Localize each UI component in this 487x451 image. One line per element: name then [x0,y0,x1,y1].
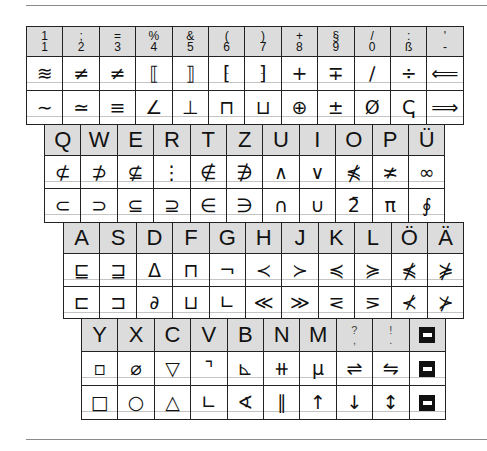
letter-key[interactable]: H [246,223,282,254]
letter-key[interactable]: K [319,223,355,254]
symbol-key[interactable]: ⋮ [154,156,190,189]
letter-key[interactable]: V [191,319,227,352]
symbol-key[interactable]: ∟ [191,386,227,420]
symbol-key[interactable]: ↓ [337,386,373,420]
letter-key[interactable]: Ä [428,223,464,254]
letter-key[interactable]: Z [227,125,263,156]
symbol-key[interactable]: π [373,189,409,223]
letter-key[interactable]: D [137,223,173,254]
letter-key[interactable]: E [118,125,154,156]
letter-key[interactable]: N [264,319,300,352]
symbol-key[interactable]: ∼ [27,91,63,125]
symbol-key[interactable]: ⌀ [118,352,154,386]
symbol-key[interactable]: ⇋ [373,352,409,386]
symbol-key[interactable]: ⟦ [136,57,172,91]
letter-key[interactable]: C [155,319,191,352]
symbol-key[interactable]: ⌝ [191,352,227,386]
symbol-key[interactable]: ∩ [263,189,299,223]
symbol-key[interactable]: ⋠ [392,254,428,287]
symbol-key[interactable]: ⟸ [427,57,463,91]
symbol-key[interactable]: ⊔ [173,287,209,319]
symbol-key[interactable]: ⟧ [173,57,209,91]
symbol-key[interactable]: ∋ [227,189,263,223]
symbol-key[interactable]: ≃ [63,91,99,125]
symbol-key[interactable]: ⊑ [64,254,100,287]
symbol-key[interactable]: ⊓ [173,254,209,287]
letter-key[interactable]: W [81,125,117,156]
symbol-key[interactable]: ⊾ [228,352,264,386]
symbol-key[interactable]: ⊏ [64,287,100,319]
symbol-key[interactable]: ⋜ [319,287,355,319]
symbol-key[interactable]: ⊕ [282,91,318,125]
symbol-key[interactable]: ∥ [264,386,300,420]
symbol-key[interactable]: ⇌ [337,352,373,386]
letter-key[interactable]: A [64,223,100,254]
symbol-key[interactable]: ∠ [136,91,172,125]
symbol-key[interactable]: ∈ [191,189,227,223]
letter-key[interactable]: F [173,223,209,254]
symbol-key[interactable]: ∪ [300,189,336,223]
letter-key[interactable]: T [191,125,227,156]
symbol-key[interactable] [410,386,446,420]
number-key[interactable]: &5 [173,27,209,57]
number-key[interactable]: '- [427,27,463,57]
symbol-key[interactable]: ≺ [246,254,282,287]
number-key[interactable]: (6 [209,27,245,57]
symbol-key[interactable]: ∕ [355,57,391,91]
symbol-key[interactable]: □ [82,386,118,420]
letter-key[interactable]: Q [45,125,81,156]
symbol-key[interactable]: ≼ [319,254,355,287]
letter-key[interactable]: Ü [409,125,445,156]
symbol-key[interactable]: ≠ [100,57,136,91]
symbol-key[interactable]: ↕ [373,386,409,420]
symbol-key[interactable]: ≪ [246,287,282,319]
letter-key[interactable]: M [300,319,336,352]
symbol-key[interactable]: ⋡ [428,254,464,287]
symbol-key[interactable]: ⊆ [118,189,154,223]
symbol-key[interactable]: ∢ [228,386,264,420]
symbol-key[interactable]: ▫ [82,352,118,386]
symbol-key[interactable]: ⊈ [118,156,154,189]
symbol-key[interactable]: ⊐ [100,287,136,319]
symbol-key[interactable]: ▽ [155,352,191,386]
symbol-key[interactable]: ≡ [100,91,136,125]
symbol-key[interactable]: ⟹ [427,91,463,125]
letter-key[interactable]: G [210,223,246,254]
symbol-key[interactable]: ∮ [409,189,445,223]
number-key[interactable]: /0 [355,27,391,57]
number-key[interactable]: §9 [318,27,354,57]
symbol-key[interactable]: ⊥ [173,91,209,125]
symbol-key[interactable]: ⊂ [45,189,81,223]
symbol-key[interactable]: ⊅ [81,156,117,189]
letter-key[interactable]: L [355,223,391,254]
symbol-key[interactable]: ⊄ [45,156,81,189]
symbol-key[interactable]: ⁆ [245,57,281,91]
symbol-key[interactable] [410,352,446,386]
symbol-key[interactable]: ∓ [318,57,354,91]
symbol-key[interactable]: 2̄ [336,189,372,223]
symbol-key[interactable]: ≭ [373,156,409,189]
symbol-key[interactable]: ¬ [210,254,246,287]
punctuation-key[interactable]: ?, [337,319,373,352]
letter-key[interactable]: Ö [392,223,428,254]
symbol-key[interactable]: Ø [355,91,391,125]
symbol-key[interactable]: ⊓ [209,91,245,125]
number-key[interactable]: +8 [282,27,318,57]
number-key[interactable]: )7 [245,27,281,57]
number-key[interactable]: 11 [27,27,63,57]
symbol-key[interactable]: △ [155,386,191,420]
number-key[interactable]: :ß [391,27,427,57]
letter-key[interactable]: R [154,125,190,156]
symbol-key[interactable]: ∞ [409,156,445,189]
symbol-key[interactable]: ⊒ [100,254,136,287]
symbol-key[interactable]: ⊃ [81,189,117,223]
symbol-key[interactable]: ≻ [282,254,318,287]
symbol-key[interactable]: ≫ [282,287,318,319]
letter-key[interactable]: U [263,125,299,156]
symbol-key[interactable]: ∧ [263,156,299,189]
symbol-key[interactable]: + [282,57,318,91]
symbol-key[interactable]: ⊔ [245,91,281,125]
letter-key[interactable]: B [228,319,264,352]
symbol-key[interactable]: ⋝ [355,287,391,319]
symbol-key[interactable]: ↑ [300,386,336,420]
